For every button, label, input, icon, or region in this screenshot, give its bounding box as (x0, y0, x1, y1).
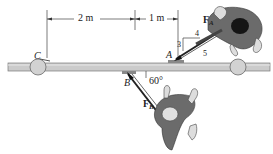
statics-figure (0, 0, 273, 154)
slope-rise-label: 3 (177, 41, 181, 49)
force-fa-label: FA (203, 15, 214, 27)
angle-60-label: 60° (149, 76, 163, 86)
force-fb-label: FB (143, 99, 154, 111)
slope-hyp-label: 5 (203, 50, 207, 58)
slope-run-label: 4 (195, 30, 199, 38)
point-a-label: A (166, 50, 172, 60)
point-c-label: C (34, 51, 41, 61)
dimension-2m-label: 2 m (78, 13, 93, 23)
dimension-1m-label: 1 m (149, 13, 164, 23)
force-fa-subscript: A (209, 19, 214, 27)
force-fb-subscript: B (149, 103, 154, 111)
right-wheel (230, 59, 246, 75)
left-wheel (30, 59, 46, 75)
plate-b (122, 71, 136, 74)
person-b (154, 86, 197, 151)
point-b-label: B (124, 78, 130, 88)
